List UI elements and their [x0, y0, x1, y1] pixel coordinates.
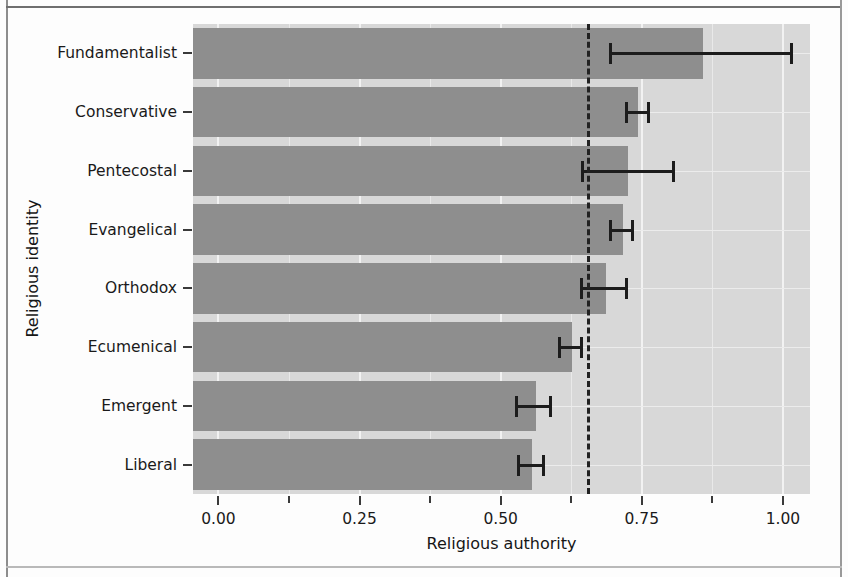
y-tick-mark — [183, 229, 192, 231]
x-tick-mark-major — [217, 496, 219, 505]
x-tick-mark-minor — [288, 496, 290, 503]
x-tick-mark-minor — [570, 496, 572, 503]
x-tick-label: 1.00 — [766, 510, 801, 528]
error-bar-cap-low — [609, 220, 612, 241]
x-tick-mark-major — [359, 496, 361, 505]
y-tick-label-fundamentalist: Fundamentalist — [3, 44, 177, 62]
gridline-x-major — [641, 24, 643, 494]
error-bar-cap-high — [672, 161, 675, 182]
bar — [193, 439, 532, 490]
x-tick-mark-major — [500, 496, 502, 505]
error-bar-cap-high — [631, 220, 634, 241]
x-tick-mark-major — [782, 496, 784, 505]
error-bar-cap-high — [549, 396, 552, 417]
bar — [193, 263, 606, 314]
x-tick-label: 0.75 — [625, 510, 660, 528]
error-bar-cap-low — [609, 43, 612, 64]
error-bar-cap-low — [558, 337, 561, 358]
y-tick-mark — [183, 52, 192, 54]
page-border-right — [840, 0, 842, 577]
page-border-top — [6, 6, 842, 8]
bar — [193, 87, 638, 138]
page-border-bottom — [6, 566, 842, 568]
error-bar-cap-low — [515, 396, 518, 417]
figure-canvas: FundamentalistConservativePentecostalEva… — [0, 0, 848, 577]
error-bar-line — [581, 170, 675, 173]
y-tick-mark — [183, 405, 192, 407]
y-tick-mark — [183, 346, 192, 348]
reference-line — [587, 24, 590, 494]
error-bar-line — [609, 52, 793, 55]
y-tick-mark — [183, 170, 192, 172]
bar — [193, 322, 572, 373]
error-bar-cap-high — [580, 337, 583, 358]
gridline-x-minor — [712, 24, 713, 494]
x-tick-label: 0.00 — [201, 510, 236, 528]
error-bar-cap-low — [517, 455, 520, 476]
error-bar-cap-high — [542, 455, 545, 476]
y-tick-mark — [183, 464, 192, 466]
error-bar-line — [515, 405, 552, 408]
error-bar-cap-low — [581, 161, 584, 182]
x-tick-mark-major — [641, 496, 643, 505]
y-tick-mark — [183, 287, 192, 289]
x-tick-mark-minor — [711, 496, 713, 503]
y-axis-title: Religious identity — [23, 149, 42, 389]
error-bar-cap-low — [625, 102, 628, 123]
x-tick-label: 0.25 — [342, 510, 377, 528]
bar — [193, 381, 536, 432]
x-tick-label: 0.50 — [483, 510, 518, 528]
bar — [193, 146, 628, 197]
y-tick-label-conservative: Conservative — [3, 103, 177, 121]
y-tick-label-liberal: Liberal — [3, 456, 177, 474]
error-bar-cap-low — [580, 278, 583, 299]
error-bar-cap-high — [647, 102, 650, 123]
y-tick-mark — [183, 111, 192, 113]
x-axis-title: Religious authority — [193, 534, 810, 553]
error-bar-cap-high — [790, 43, 793, 64]
x-tick-mark-minor — [429, 496, 431, 503]
y-tick-label-emergent: Emergent — [3, 397, 177, 415]
bar — [193, 204, 623, 255]
error-bar-cap-high — [625, 278, 628, 299]
plot-panel — [193, 24, 810, 494]
gridline-x-major — [782, 24, 784, 494]
error-bar-line — [517, 464, 545, 467]
